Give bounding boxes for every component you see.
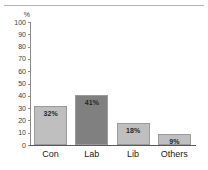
bar-value-label: 9% (159, 138, 190, 146)
bar-value-label: 18% (118, 127, 149, 135)
y-axis-tick-label: 40 (6, 92, 26, 99)
y-axis-tick-label: 70 (6, 55, 26, 62)
y-axis-tick-label: 100 (6, 19, 26, 26)
bar-lib[interactable]: 18% (117, 123, 150, 145)
plot-area: 32%41%18%9% (30, 22, 195, 145)
bar-value-label: 41% (76, 99, 107, 107)
bar-chart-figure: % 1009080706050403020100 32%41%18%9% Con… (0, 0, 208, 170)
y-axis-tick-label: 80 (6, 43, 26, 50)
bar-others[interactable]: 9% (158, 134, 191, 145)
bar-value-label: 32% (35, 110, 66, 118)
y-axis-tick-label: 10 (6, 129, 26, 136)
x-axis-label-others: Others (154, 149, 195, 160)
x-axis-label-con: Con (30, 149, 71, 160)
y-axis-tick-label: 20 (6, 117, 26, 124)
x-axis-label-lib: Lib (113, 149, 154, 160)
y-axis-tick-label: 50 (6, 80, 26, 87)
bar-lab[interactable]: 41% (75, 95, 108, 145)
x-axis-label-lab: Lab (71, 149, 112, 160)
y-axis-tick-mark (28, 145, 30, 146)
y-axis-tick-label: 30 (6, 105, 26, 112)
bar-con[interactable]: 32% (34, 106, 67, 145)
y-axis-tick-label: 60 (6, 68, 26, 75)
y-axis-tick-label: 90 (6, 31, 26, 38)
top-divider-rule (4, 5, 204, 6)
y-axis-tick-label: 0 (6, 142, 26, 149)
